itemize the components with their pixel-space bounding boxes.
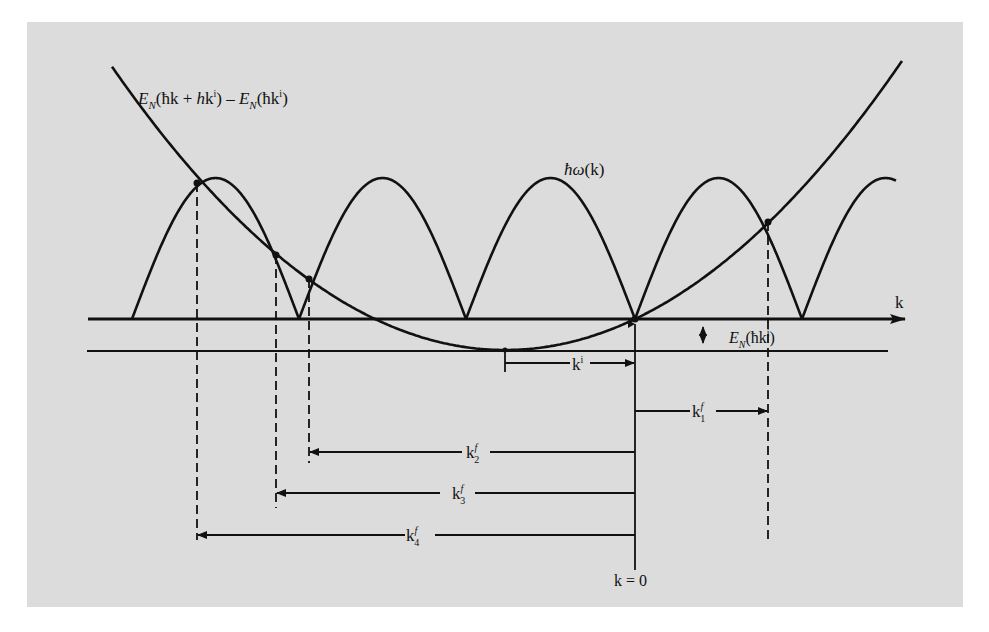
phonon-arch-3 — [466, 178, 635, 319]
phonon-dispersion-curve — [132, 178, 896, 319]
intersection-dot — [632, 316, 639, 323]
parabola-label: EN(ħk + hki) – EN(ħki) — [137, 88, 288, 111]
phonon-arch-1 — [132, 178, 299, 319]
kf2-label: kf2 — [466, 442, 479, 465]
ki-label: ki — [572, 354, 584, 374]
phonon-arch-4 — [635, 178, 802, 319]
k-zero-label: k = 0 — [614, 572, 647, 589]
k-axis-label: k — [895, 293, 904, 312]
kf3-label: kf3 — [452, 483, 465, 506]
kf4-label: kf4 — [406, 525, 419, 548]
omega-label: ħω(k) — [564, 160, 604, 179]
phonon-arch-2 — [299, 178, 466, 319]
dispersion-diagram: EN(ħk + hki) – EN(ħki) ħω(k) k EN(ħki) k… — [0, 0, 989, 632]
phonon-arch-5 — [802, 178, 896, 319]
kf1-label: kf1 — [692, 401, 705, 424]
